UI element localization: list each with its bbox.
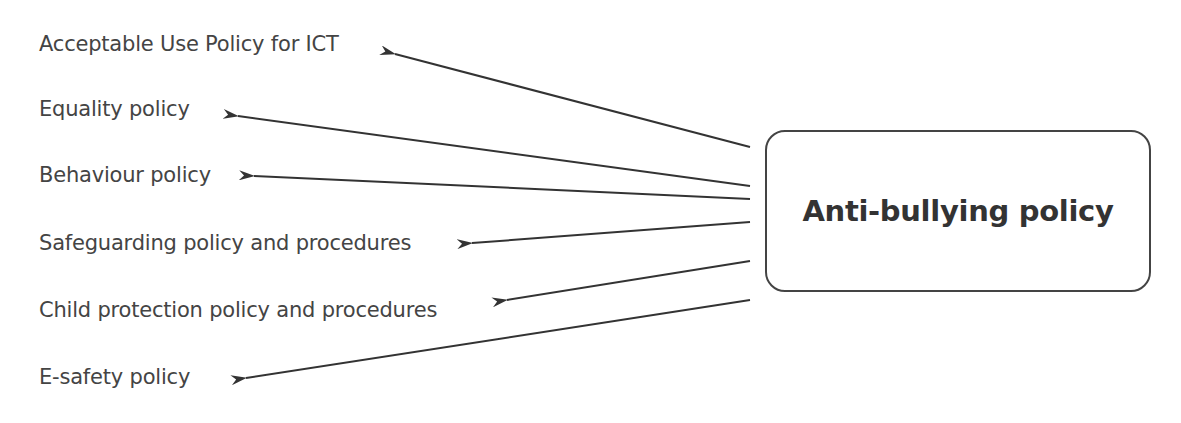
policy-behaviour: Behaviour policy	[39, 165, 211, 186]
policy-child-protection: Child protection policy and procedures	[39, 300, 437, 321]
policy-equality: Equality policy	[39, 99, 190, 120]
arrow-to-child-protection	[507, 261, 750, 300]
central-node-label: Anti-bullying policy	[802, 194, 1113, 228]
central-node-box: Anti-bullying policy	[765, 130, 1151, 292]
policy-e-safety: E-safety policy	[39, 367, 190, 388]
arrow-to-behaviour	[254, 176, 750, 199]
arrow-to-safeguarding	[472, 222, 750, 243]
arrow-to-acceptable-use	[395, 54, 750, 147]
policy-safeguarding: Safeguarding policy and procedures	[39, 233, 411, 254]
policy-acceptable-use: Acceptable Use Policy for ICT	[39, 34, 339, 55]
